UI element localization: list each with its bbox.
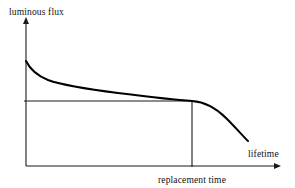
x-axis-arrow-icon [274, 163, 281, 169]
x-axis-label: lifetime [248, 149, 279, 159]
y-axis-arrow-icon [23, 17, 29, 24]
axes-group [23, 17, 281, 169]
replacement-time-label: replacement time [158, 175, 226, 185]
figure-canvas: luminous flux lifetime replacement time [0, 0, 295, 188]
luminous-flux-figure: luminous flux lifetime replacement time [0, 0, 295, 188]
annotation-lines-group [24, 101, 192, 167]
y-axis-label: luminous flux [9, 7, 64, 17]
